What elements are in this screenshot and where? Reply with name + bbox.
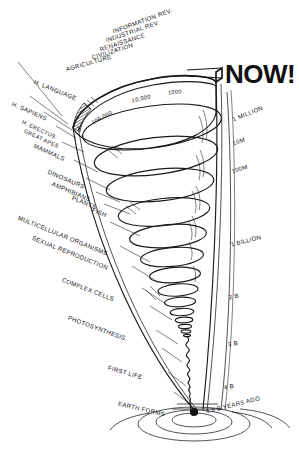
now-label: NOW! bbox=[225, 59, 295, 89]
spiral-of-time-diagram: INFORMATION REV. INDUSTRIAL REV. RENAISS… bbox=[0, 0, 299, 463]
figure-canvas: INFORMATION REV. INDUSTRIAL REV. RENAISS… bbox=[0, 0, 299, 463]
